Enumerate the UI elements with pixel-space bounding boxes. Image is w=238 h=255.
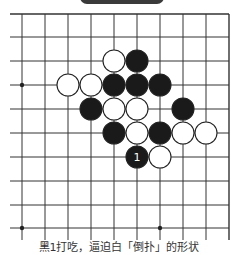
- white-stone: [126, 122, 148, 144]
- white-stone: [57, 74, 79, 96]
- black-stone: [172, 98, 194, 120]
- star-point: [20, 226, 24, 230]
- stones: 1: [57, 50, 217, 168]
- white-stone: [172, 122, 194, 144]
- black-stone: [80, 98, 102, 120]
- white-stone: [103, 50, 125, 72]
- white-stone: [195, 122, 217, 144]
- star-point: [20, 83, 24, 87]
- diagram-caption: 黑1打吃，逼迫白「倒扑」的形状: [0, 241, 238, 255]
- black-stone: 1: [126, 146, 148, 168]
- black-stone: [149, 74, 171, 96]
- white-stone: [103, 98, 125, 120]
- black-stone: [103, 122, 125, 144]
- move-number-label: 1: [134, 151, 141, 164]
- white-stone: [126, 98, 148, 120]
- black-stone: [149, 122, 171, 144]
- star-point: [158, 226, 162, 230]
- go-board: 1: [0, 0, 238, 240]
- white-stone: [80, 74, 102, 96]
- white-stone: [149, 146, 171, 168]
- black-stone: [126, 74, 148, 96]
- black-stone: [126, 50, 148, 72]
- black-stone: [103, 74, 125, 96]
